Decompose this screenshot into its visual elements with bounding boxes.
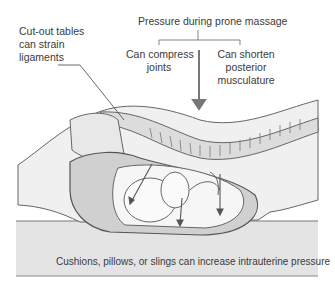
cutout-line-1: Cut-out tables: [19, 25, 84, 38]
prone-massage-diagram: Cut-out tables can strain ligaments Pres…: [0, 0, 335, 286]
cutout-line-2: can strain: [19, 38, 84, 51]
pressure-title: Pressure during prone massage: [138, 15, 287, 28]
shorten-line-1: Can shorten: [213, 48, 279, 61]
shorten-musculature-label: Can shorten posterior musculature: [213, 48, 279, 87]
downward-pressure-arrow: [193, 50, 205, 109]
label-bracket: [159, 30, 240, 45]
compress-joints-label: Can compress joints: [126, 48, 192, 74]
shorten-line-2: posterior: [213, 61, 279, 74]
cutout-tables-label: Cut-out tables can strain ligaments: [19, 25, 84, 64]
shorten-line-3: musculature: [213, 74, 279, 87]
cushions-caption: Cushions, pillows, or slings can increas…: [56, 255, 330, 268]
compress-line-2: joints: [126, 61, 192, 74]
compress-line-1: Can compress: [126, 48, 192, 61]
cutout-line-3: ligaments: [19, 51, 84, 64]
